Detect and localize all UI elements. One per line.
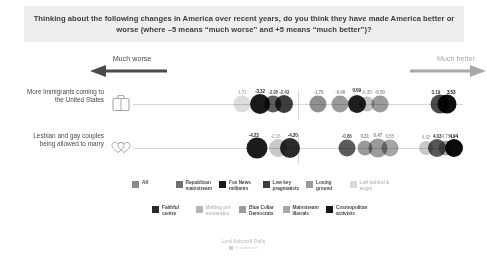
data-point-value-low-key-pragmatists: -2.43 xyxy=(279,90,289,95)
data-point-value-melting-pot-moderates: -0.35 xyxy=(362,90,372,95)
legend-row-1: AllRepublican mainstreamFox News militan… xyxy=(0,180,487,200)
row-zero-tick xyxy=(298,90,299,120)
legend-label: All xyxy=(142,180,148,186)
data-point-value-blue-collar-democrats: -0.50 xyxy=(375,90,385,95)
data-point-value-losing-ground: -0.40 xyxy=(335,90,345,95)
data-point-republican-mainstream xyxy=(338,140,355,157)
legend-item[interactable]: All xyxy=(132,180,148,188)
legend-swatch-icon xyxy=(196,206,203,213)
legend-swatch-icon xyxy=(306,181,313,188)
left-arrow-icon xyxy=(72,64,192,78)
legend-item[interactable]: Cosmopolitan activists xyxy=(326,205,367,216)
legend-item[interactable]: Mainstream liberals xyxy=(283,205,319,216)
data-point-value-mainstream-liberals: 4.03 xyxy=(433,134,442,139)
data-point-value-republican-mainstream: -2.95 xyxy=(268,90,278,95)
legend-swatch-icon xyxy=(350,181,357,188)
legend-swatch-icon xyxy=(263,181,270,188)
legend-label: Blue Collar Democrats xyxy=(249,205,274,216)
data-point-value-fox-news-militants: -3.32 xyxy=(255,89,265,94)
chart-row-marriage: Lesbian and gay couples being allowed to… xyxy=(0,128,487,172)
legend-swatch-icon xyxy=(132,181,139,188)
chart-footer: Lord Ashcroft Polls @LordAshcroft xyxy=(0,238,487,250)
chart-row-immigrants: More immigrants coming to the United Sta… xyxy=(0,84,487,128)
legend-swatch-icon xyxy=(283,206,290,213)
legend-item[interactable]: Republican mainstream xyxy=(176,180,212,191)
data-point-melting-pot-moderates xyxy=(381,140,398,157)
legend-item[interactable]: Losing ground xyxy=(306,180,332,191)
data-point-value-left-behind-angry: -1.71 xyxy=(237,90,247,95)
data-point-value-mainstream-liberals: 3.19 xyxy=(432,90,441,95)
much-worse-label: Much worse xyxy=(72,54,192,63)
data-point-value-losing-ground: 0.47 xyxy=(374,133,383,138)
data-point-value-cosmopolitan-activists: 3.53 xyxy=(447,90,456,95)
double-heart-icon xyxy=(110,136,132,158)
legend-label: Faithful centre xyxy=(162,205,179,216)
legend-swatch-icon xyxy=(176,181,183,188)
legend-label: Fox News militants xyxy=(229,180,251,191)
data-point-value-blue-collar-democrats: 4.02 xyxy=(422,135,431,140)
legend-swatch-icon xyxy=(326,206,333,213)
data-point-left-behind-angry xyxy=(233,96,250,113)
data-point-cosmopolitan-activists xyxy=(445,139,463,157)
data-point-fox-news-militants xyxy=(246,138,267,159)
legend-item[interactable]: Faithful centre xyxy=(152,205,179,216)
legend-label: Cosmopolitan activists xyxy=(336,205,367,216)
legend-label: Losing ground xyxy=(316,180,332,191)
legend-item[interactable]: Low key pragmatists xyxy=(263,180,300,191)
data-point-cosmopolitan-activists xyxy=(438,95,457,114)
row-label-marriage: Lesbian and gay couples being allowed to… xyxy=(24,132,104,149)
legend-swatch-icon xyxy=(219,181,226,188)
data-point-value-left-behind-angry: -4.20 xyxy=(288,133,298,138)
chart-plot-area: More immigrants coming to the United Sta… xyxy=(0,84,487,176)
page-title: Thinking about the following changes in … xyxy=(30,13,458,35)
axis-direction-better: Much better xyxy=(396,54,487,78)
legend-item[interactable]: Melting pot moderates xyxy=(196,205,231,216)
data-point-low-key-pragmatists xyxy=(275,95,293,113)
legend-row-2: Faithful centreMelting pot moderatesBlue… xyxy=(0,205,487,225)
data-point-value-fox-news-militants: -4.23 xyxy=(249,133,259,138)
footer-mark-text: @LordAshcroft xyxy=(234,246,258,250)
legend-item[interactable]: Left behind & angry xyxy=(350,180,390,191)
data-point-value-low-key-pragmatists: -2.15 xyxy=(271,134,281,139)
footer-credit: Lord Ashcroft Polls xyxy=(0,238,487,244)
data-point-value-republican-mainstream: -0.86 xyxy=(342,134,352,139)
briefcase-icon xyxy=(110,92,132,114)
data-point-losing-ground xyxy=(332,96,349,113)
data-point-value-cosmopolitan-activists: 4.94 xyxy=(449,134,458,139)
much-better-label: Much better xyxy=(396,54,487,63)
data-point-left-behind-angry xyxy=(280,138,300,158)
footer-mark: @LordAshcroft xyxy=(0,246,487,250)
data-point-blue-collar-democrats xyxy=(371,96,388,113)
data-point-value-all: 0.31 xyxy=(360,134,369,139)
row-label-immigrants: More immigrants coming to the United Sta… xyxy=(24,88,104,105)
data-point-value-all: -1.70 xyxy=(313,90,323,95)
legend-swatch-icon xyxy=(152,206,159,213)
data-point-value-faithful-centre: 0.09 xyxy=(352,88,361,93)
chart-title-banner: Thinking about the following changes in … xyxy=(24,6,464,42)
legend-label: Left behind & angry xyxy=(360,180,390,191)
legend-item[interactable]: Blue Collar Democrats xyxy=(239,205,274,216)
legend-label: Melting pot moderates xyxy=(206,205,231,216)
legend-swatch-icon xyxy=(239,206,246,213)
legend-item[interactable]: Fox News militants xyxy=(219,180,251,191)
data-point-value-melting-pot-moderates: 0.55 xyxy=(385,134,394,139)
right-arrow-icon xyxy=(396,64,487,78)
legend-label: Republican mainstream xyxy=(186,180,212,191)
legend-label: Mainstream liberals xyxy=(293,205,319,216)
square-mark-icon xyxy=(229,246,233,250)
legend-label: Low key pragmatists xyxy=(273,180,300,191)
axis-direction-worse: Much worse xyxy=(72,54,192,78)
data-point-all xyxy=(310,96,327,113)
